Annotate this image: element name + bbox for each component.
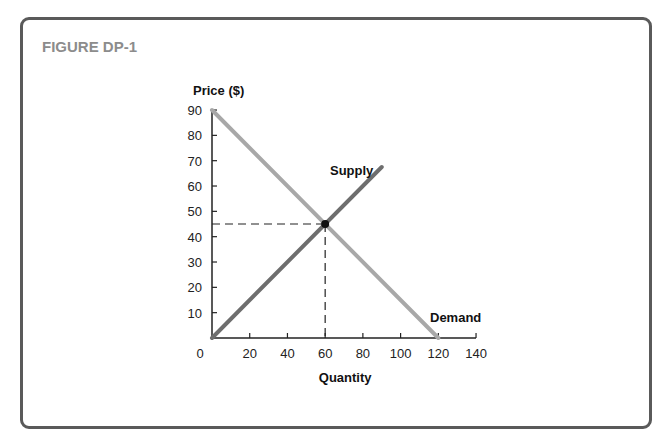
y-tick-label: 30 <box>188 255 202 270</box>
equilibrium-point <box>321 220 329 228</box>
supply-label: Supply <box>330 163 374 178</box>
y-tick-label: 70 <box>188 154 202 169</box>
y-tick-label: 60 <box>188 179 202 194</box>
x-tick-label: 40 <box>280 346 294 361</box>
x-tick-label: 140 <box>465 346 487 361</box>
y-axis-title: Price ($) <box>193 83 244 98</box>
y-tick-label: 40 <box>188 230 202 245</box>
y-tick-label: 90 <box>188 103 202 118</box>
y-tick-label: 80 <box>188 128 202 143</box>
y-tick-label: 20 <box>188 280 202 295</box>
x-tick-label: 20 <box>242 346 256 361</box>
x-tick-label: 0 <box>196 346 203 361</box>
x-tick-label: 120 <box>427 346 449 361</box>
x-tick-label: 60 <box>318 346 332 361</box>
y-tick-label: 50 <box>188 204 202 219</box>
supply-demand-chart: 102030405060708090020406080100120140Pric… <box>0 0 666 448</box>
x-tick-label: 80 <box>356 346 370 361</box>
x-tick-label: 100 <box>390 346 412 361</box>
supply-curve <box>212 167 382 338</box>
y-tick-label: 10 <box>188 306 202 321</box>
x-axis-title: Quantity <box>319 370 372 385</box>
demand-label: Demand <box>430 310 481 325</box>
